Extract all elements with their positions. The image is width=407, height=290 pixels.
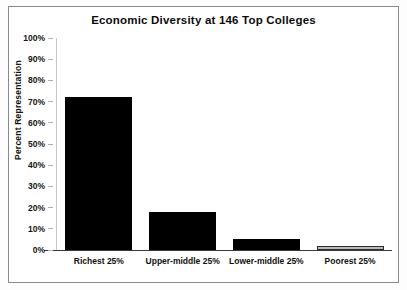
y-tick-label: 40% — [28, 159, 45, 171]
y-tick: 0% — [0, 244, 57, 256]
bar[interactable] — [317, 246, 384, 250]
y-tick: 30% — [0, 180, 57, 192]
y-tick-label: 20% — [28, 202, 45, 214]
x-tick-label: Richest 25% — [57, 256, 141, 266]
chart-figure: Economic Diversity at 146 Top Colleges P… — [0, 0, 407, 290]
y-tick: 70% — [0, 96, 57, 108]
y-tick-label: 30% — [28, 180, 45, 192]
y-tick: 100% — [0, 32, 57, 44]
y-tick: 50% — [0, 138, 57, 150]
y-tick: 10% — [0, 223, 57, 235]
y-tick-label: 50% — [28, 138, 45, 150]
x-axis-labels: Richest 25%Upper-middle 25%Lower-middle … — [57, 256, 392, 272]
chart-title: Economic Diversity at 146 Top Colleges — [0, 14, 407, 26]
y-tick: 60% — [0, 117, 57, 129]
bar[interactable] — [233, 239, 300, 250]
x-tick-label: Upper-middle 25% — [141, 256, 225, 266]
bar[interactable] — [65, 97, 132, 250]
y-tick-mark — [48, 186, 53, 187]
y-tick-mark — [48, 59, 53, 60]
x-tick-label: Poorest 25% — [308, 256, 392, 266]
y-tick: 20% — [0, 202, 57, 214]
y-tick-label: 80% — [28, 74, 45, 86]
bar[interactable] — [149, 212, 216, 250]
y-tick-mark — [48, 207, 53, 208]
y-tick-mark — [48, 165, 53, 166]
y-tick-label: 90% — [28, 53, 45, 65]
y-tick-mark — [48, 80, 53, 81]
y-tick-label: 100% — [23, 32, 45, 44]
y-tick: 80% — [0, 74, 57, 86]
y-tick-label: 70% — [28, 96, 45, 108]
x-tick-label: Lower-middle 25% — [225, 256, 309, 266]
y-tick-label: 10% — [28, 223, 45, 235]
bar-series — [57, 38, 392, 250]
bar-slot — [149, 38, 216, 250]
bar-slot — [233, 38, 300, 250]
y-tick-mark — [48, 144, 53, 145]
x-axis-line — [44, 250, 392, 251]
y-tick: 40% — [0, 159, 57, 171]
y-tick-mark — [48, 38, 53, 39]
y-tick-mark — [48, 101, 53, 102]
y-tick-label: 0% — [33, 244, 45, 256]
y-tick: 90% — [0, 53, 57, 65]
y-tick-mark — [48, 228, 53, 229]
y-tick-mark — [48, 122, 53, 123]
y-tick-label: 60% — [28, 117, 45, 129]
bar-slot — [65, 38, 132, 250]
y-tick-mark — [48, 250, 53, 251]
bar-slot — [317, 38, 384, 250]
